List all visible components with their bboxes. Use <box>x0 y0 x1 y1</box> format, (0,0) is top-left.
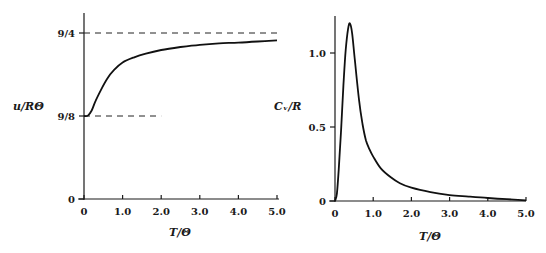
data-curve <box>335 23 526 201</box>
x-tick-label: 5.0 <box>517 208 534 219</box>
x-tick-label: 4.0 <box>479 208 496 219</box>
x-tick-label: 4.0 <box>230 206 247 217</box>
internal-energy-plot: 01.02.03.04.05.009/89/4u/RΘT/Θ <box>13 13 286 239</box>
x-axis-label: T/Θ <box>169 226 191 239</box>
x-tick-label: 3.0 <box>441 208 458 219</box>
x-tick-label: 0 <box>332 208 339 219</box>
x-tick-label: 2.0 <box>403 208 420 219</box>
x-tick-label: 0 <box>81 206 88 217</box>
x-tick-label: 1.0 <box>364 208 381 219</box>
x-tick-label: 3.0 <box>191 206 208 217</box>
x-tick-label: 2.0 <box>152 206 169 217</box>
y-tick-label: 0.5 <box>309 122 326 133</box>
y-tick-label: 0 <box>319 196 326 207</box>
y-tick-label: 9/4 <box>57 28 75 39</box>
x-tick-label: 5.0 <box>268 206 285 217</box>
data-curve <box>84 40 277 116</box>
y-tick-label: 0 <box>68 194 75 205</box>
y-axis-label: Cᵥ/R <box>274 100 301 113</box>
y-tick-label: 9/8 <box>57 111 75 122</box>
y-axis-label: u/RΘ <box>13 100 44 113</box>
y-tick-label: 1.0 <box>309 48 326 59</box>
figure: 01.02.03.04.05.009/89/4u/RΘT/Θ 01.02.03.… <box>0 0 546 253</box>
heat-capacity-plot: 01.02.03.04.05.000.51.0Cᵥ/RT/Θ <box>274 16 535 243</box>
x-axis-label: T/Θ <box>419 230 441 243</box>
x-tick-label: 1.0 <box>114 206 131 217</box>
